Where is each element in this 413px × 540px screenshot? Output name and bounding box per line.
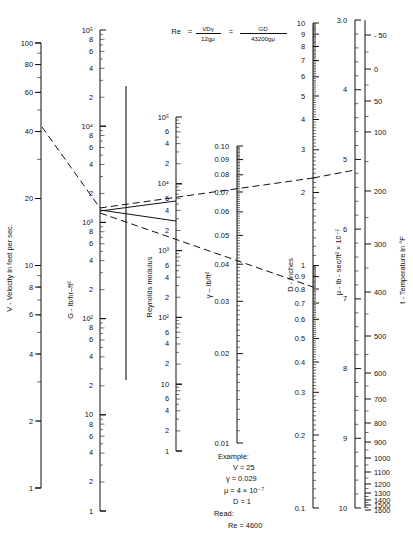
massvel-tick-label: 8 — [89, 35, 93, 44]
velocity-tick-label: 80 — [25, 60, 33, 69]
temperature-tick-label: 200 — [374, 187, 386, 196]
temperature-tick-label: 50 — [374, 97, 382, 106]
temperature-tick-label: 800 — [374, 419, 386, 428]
diameter-tick-label: 0.7 — [295, 299, 305, 308]
gamma-tick-label: 0.08 — [215, 170, 229, 179]
reynolds-tick-label: 6 — [165, 394, 169, 403]
example-line-1: γ = 0.029 — [226, 474, 257, 483]
velocity-tick-label: 10 — [25, 261, 33, 270]
reynolds-tick-label: 6 — [165, 328, 169, 337]
axis-velocity: 100806040201086421 V - Velocity in feet … — [5, 39, 41, 493]
massvel-tick-label: 4 — [89, 256, 93, 265]
diameter-tick-label: 0.1 — [295, 504, 305, 513]
reynolds-tick-label: 4 — [165, 406, 169, 415]
gamma-tick-label: 0.09 — [215, 155, 229, 164]
velocity-tick-label: 40 — [25, 127, 33, 136]
massvel-tick-label: 2 — [89, 93, 93, 102]
viscosity-tick-label: 7 — [343, 294, 347, 303]
velocity-tick-label: 20 — [25, 194, 33, 203]
massvel-tick-label: 2 — [89, 381, 93, 390]
gamma-tick-label: 0.04 — [215, 260, 229, 269]
example-read-heading: Read: — [214, 509, 234, 518]
massvel-tick-label: 4 — [89, 64, 93, 73]
gamma-tick-label: 0.07 — [215, 188, 229, 197]
formula-numerator-2: GD — [258, 25, 268, 32]
gamma-tick-label: 0.05 — [215, 231, 229, 240]
diameter-tick-label: 0.4 — [295, 358, 305, 367]
axis-label-reynolds: Reynolds modulus — [145, 256, 154, 317]
example-line-0: V = 25 — [233, 463, 255, 472]
diameter-tick-label: 0.5 — [295, 334, 305, 343]
velocity-tick-label: 1 — [29, 484, 33, 493]
diameter-tick-label: 0.8 — [295, 285, 305, 294]
gamma-tick-label: 0.02 — [215, 349, 229, 358]
massvel-tick-label: 2 — [89, 477, 93, 486]
temperature-tick-label: 900 — [374, 438, 386, 447]
axis-label-specific-weight: γ – lb/ft² — [204, 271, 213, 298]
velocity-tick-label: 6 — [29, 310, 33, 319]
diameter-tick-label: 4 — [301, 115, 305, 124]
formula-block: Re = VDγ 12gμ = GD 43200gμ — [171, 25, 287, 42]
diameter-tick-label: 1 — [301, 261, 305, 270]
axis-viscosity: 3.045678910 μ - lb - sec/ft² × 10⁻⁷ — [334, 16, 361, 513]
temperature-tick-label: - 50 — [374, 31, 387, 40]
viscosity-tick-label: 3.0 — [337, 16, 347, 25]
diameter-tick-label: 5 — [301, 92, 305, 101]
velocity-tick-label: 100 — [21, 39, 33, 48]
massvel-tick-label: 8 — [89, 227, 93, 236]
velocity-tick-label: 4 — [29, 350, 33, 359]
diameter-tick-label: 0.3 — [295, 388, 305, 397]
massvel-tick-label: 6 — [89, 335, 93, 344]
massvel-decade-label: 10 — [85, 410, 93, 419]
construction-line-diameter-to-viscosity — [313, 170, 355, 178]
reynolds-tick-label: 2 — [165, 293, 169, 302]
reynolds-tick-label: 4 — [165, 339, 169, 348]
massvel-bottom-label: 1 — [89, 507, 93, 516]
temperature-tick-label: 700 — [374, 395, 386, 404]
temperature-tick-label: 100 — [374, 128, 386, 137]
example-block: Example: V = 25 γ = 0.029 μ = 4 × 10⁻⁷ D… — [214, 452, 264, 530]
reynolds-tick-label: 6 — [165, 127, 169, 136]
velocity-tick-label: 60 — [25, 88, 33, 97]
reynolds-decade-label: 10⁴ — [158, 179, 169, 188]
massvel-tick-label: 8 — [89, 323, 93, 332]
temperature-tick-label: 300 — [374, 240, 386, 249]
viscosity-tick-label: 6 — [343, 225, 347, 234]
diameter-tick-label: 6 — [301, 72, 305, 81]
example-line-3: D = 1 — [233, 497, 251, 506]
reynolds-tick-label: 6 — [165, 261, 169, 270]
massvel-tick-label: 6 — [89, 239, 93, 248]
formula-denominator-2: 43200gμ — [251, 35, 276, 42]
diameter-tick-label: 0.9 — [295, 272, 305, 281]
diameter-tick-label: 10 — [297, 19, 305, 28]
temperature-tick-label: 500 — [374, 332, 386, 341]
formula-numerator-1: VDγ — [202, 25, 215, 32]
reynolds-tick-label: 2 — [165, 359, 169, 368]
massvel-tick-label: 4 — [89, 352, 93, 361]
axis-label-temperature: t - Temperature in °F — [398, 236, 407, 304]
axis-temperature: - 50050100200300400500600700800900100011… — [365, 20, 407, 515]
viscosity-tick-label: 9 — [343, 434, 347, 443]
massvel-decade-label: 10³ — [82, 218, 93, 227]
formula-equals-1: = — [188, 27, 193, 36]
temperature-tick-label: 0 — [374, 65, 378, 74]
reynolds-decade-label: 10⁵ — [158, 113, 169, 122]
massvel-tick-label: 2 — [89, 285, 93, 294]
massvel-tick-label: 8 — [89, 420, 93, 429]
massvel-decade-label: 10² — [82, 314, 93, 323]
construction-line-pivot-to-diameter-upper — [100, 178, 313, 208]
reynolds-bottom-label: 1 — [165, 447, 169, 456]
viscosity-tick-label: 10 — [339, 504, 347, 513]
reynolds-decade-label: 10 — [161, 380, 169, 389]
reynolds-tick-label: 2 — [165, 159, 169, 168]
axis-mass-velocity: 10⁵10⁴10³10²10864286428642864286421 G - … — [66, 26, 106, 516]
reynolds-decade-label: 10² — [158, 313, 169, 322]
formula-denominator-1: 12gμ — [201, 35, 215, 42]
temperature-tick-label: 1100 — [374, 468, 390, 477]
formula-lhs: Re — [171, 27, 181, 36]
axis-label-diameter: D - Inches — [286, 258, 295, 292]
massvel-tick-label: 4 — [89, 448, 93, 457]
temperature-tick-label: 1600 — [374, 506, 390, 515]
reynolds-tick-label: 4 — [165, 206, 169, 215]
gamma-tick-label: 0.10 — [215, 142, 229, 151]
